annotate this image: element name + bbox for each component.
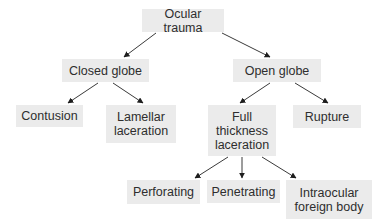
edge-ocular-to-open: [222, 33, 270, 57]
node-label: Penetrating: [212, 185, 276, 199]
edge-open-to-rupture: [295, 83, 328, 103]
edge-ocular-to-closed: [124, 33, 156, 57]
node-full-thickness-laceration: Full thickness laceration: [208, 105, 276, 156]
node-intraocular-foreign-body: Intraocular foreign body: [286, 180, 372, 219]
edge-closed-to-contusion: [68, 83, 98, 103]
node-open-globe: Open globe: [233, 59, 321, 82]
node-contusion: Contusion: [16, 105, 83, 127]
node-label: Open globe: [245, 64, 310, 78]
node-ocular-trauma: Ocular trauma: [142, 9, 224, 32]
node-label: Ocular trauma: [145, 7, 221, 35]
edge-full-to-intraocular: [262, 157, 296, 178]
node-lamellar-laceration: Lamellar laceration: [106, 105, 176, 143]
node-label: Intraocular foreign body: [295, 186, 364, 214]
node-label: Perforating: [133, 185, 194, 199]
node-rupture: Rupture: [293, 105, 361, 128]
node-closed-globe: Closed globe: [62, 59, 149, 82]
node-perforating: Perforating: [127, 180, 200, 204]
node-label: Lamellar laceration: [114, 110, 168, 138]
node-label: Full thickness laceration: [215, 110, 269, 152]
node-label: Closed globe: [69, 64, 142, 78]
edge-open-to-full-thickness: [240, 83, 270, 103]
node-label: Contusion: [21, 109, 77, 123]
edge-full-to-perforating: [195, 157, 228, 178]
node-penetrating: Penetrating: [207, 180, 280, 203]
node-label: Rupture: [305, 110, 349, 124]
edge-closed-to-lamellar: [113, 83, 143, 103]
